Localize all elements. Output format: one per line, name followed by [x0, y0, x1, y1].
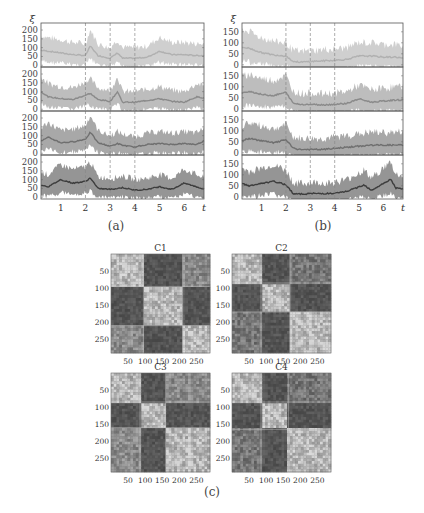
- y-tick-label: 150: [223, 27, 239, 37]
- heatmap-title: C4: [275, 362, 288, 372]
- y-tick-label: 250: [216, 335, 231, 344]
- y-tick-label: 150: [22, 122, 38, 132]
- y-tick-label: 0: [234, 104, 239, 114]
- x-axis-label: t: [202, 202, 207, 213]
- y-tick-label: 50: [99, 267, 109, 276]
- y-tick-label: 200: [22, 113, 38, 123]
- y-tick-label: 150: [223, 71, 239, 81]
- x-tick-label: 50: [123, 476, 133, 485]
- y-tick-label: 200: [216, 318, 231, 327]
- y-tick-label: 50: [228, 93, 239, 103]
- x-tick-label: 200: [172, 357, 187, 366]
- subplot-4: 050100150200: [22, 155, 204, 202]
- x-tick-label: 6: [381, 203, 387, 213]
- subplot-4: 050100150: [223, 155, 403, 202]
- y-tick-label: 50: [220, 386, 230, 395]
- x-tick-label: 5: [356, 203, 362, 213]
- y-tick-label: 0: [234, 60, 239, 70]
- x-tick-label: 4: [132, 203, 138, 213]
- x-tick-label: 3: [307, 203, 313, 213]
- x-tick-label: 1: [58, 203, 64, 213]
- y-tick-label: 100: [22, 175, 38, 185]
- subplot-2: 050100150: [223, 67, 403, 114]
- y-tick-label: 150: [22, 78, 38, 88]
- x-tick-label: 200: [172, 476, 187, 485]
- heatmap-svg: C15050100100150150200200250250C250501001…: [0, 240, 424, 513]
- heatmap-title: C3: [154, 362, 167, 372]
- subplot-3: 050100150: [223, 111, 403, 158]
- x-tick-label: 150: [155, 476, 170, 485]
- y-tick-label: 50: [27, 183, 38, 193]
- y-tick-label: 100: [223, 82, 239, 92]
- x-tick-label: 50: [244, 357, 254, 366]
- y-tick-label: 100: [216, 284, 231, 293]
- x-tick-label: 250: [189, 357, 204, 366]
- y-tick-label: 100: [22, 131, 38, 141]
- subplot-3: 050100150200: [22, 111, 204, 158]
- y-tick-label: 100: [223, 170, 239, 180]
- y-tick-label: 50: [27, 51, 38, 61]
- y-tick-label: 200: [95, 318, 110, 327]
- chart-svg: 050100150ξ050100150050100150050100150123…: [212, 0, 424, 240]
- x-tick-label: 250: [310, 476, 325, 485]
- y-tick-label: 200: [95, 437, 110, 446]
- y-tick-label: 150: [223, 159, 239, 169]
- caption-c: (c): [197, 485, 227, 499]
- x-tick-label: 100: [138, 476, 153, 485]
- x-tick-label: 4: [332, 203, 338, 213]
- y-tick-label: 0: [234, 192, 239, 202]
- variance-band: [41, 117, 204, 155]
- heatmap-c3: C35050100100150150200200250250: [95, 362, 211, 485]
- y-tick-label: 150: [216, 301, 231, 310]
- y-tick-label: 0: [33, 192, 38, 202]
- y-tick-label: 100: [223, 38, 239, 48]
- x-tick-label: 2: [83, 203, 89, 213]
- caption-b: (b): [308, 219, 338, 233]
- y-tick-label: 50: [228, 137, 239, 147]
- y-tick-label: 200: [22, 25, 38, 35]
- y-tick-label: 100: [22, 87, 38, 97]
- y-axis-label: ξ: [29, 13, 35, 24]
- x-tick-label: 100: [259, 357, 274, 366]
- y-tick-label: 150: [22, 166, 38, 176]
- x-tick-label: 100: [259, 476, 274, 485]
- x-axis-label: t: [401, 202, 406, 213]
- y-tick-label: 150: [95, 420, 110, 429]
- heatmap-title: C1: [154, 243, 167, 253]
- x-tick-label: 5: [157, 203, 163, 213]
- heatmap-c1: C15050100100150150200200250250: [95, 243, 211, 366]
- y-tick-label: 100: [95, 403, 110, 412]
- y-tick-label: 50: [27, 95, 38, 105]
- x-tick-label: 6: [181, 203, 187, 213]
- subplot-2: 050100150200: [22, 67, 204, 114]
- y-tick-label: 150: [95, 301, 110, 310]
- chart-panel-a: 050100150200ξ050100150200050100150200050…: [0, 0, 212, 240]
- y-tick-label: 200: [22, 157, 38, 167]
- y-tick-label: 150: [22, 34, 38, 44]
- y-tick-label: 150: [223, 115, 239, 125]
- x-tick-label: 200: [293, 476, 308, 485]
- variance-band: [41, 161, 204, 199]
- x-tick-label: 200: [293, 357, 308, 366]
- subplot-1: 050100150ξ: [223, 13, 403, 70]
- x-tick-label: 250: [310, 357, 325, 366]
- x-tick-label: 1: [259, 203, 265, 213]
- y-tick-label: 250: [95, 454, 110, 463]
- y-tick-label: 100: [216, 403, 231, 412]
- y-tick-label: 50: [220, 267, 230, 276]
- y-tick-label: 250: [95, 335, 110, 344]
- y-axis-label: ξ: [230, 13, 236, 24]
- chart-panel-b: 050100150ξ050100150050100150050100150123…: [212, 0, 424, 240]
- x-tick-label: 2: [283, 203, 289, 213]
- subplot-1: 050100150200ξ: [22, 13, 204, 70]
- x-tick-label: 100: [138, 357, 153, 366]
- y-tick-label: 50: [27, 139, 38, 149]
- x-tick-label: 50: [123, 357, 133, 366]
- y-tick-label: 100: [223, 126, 239, 136]
- x-tick-label: 150: [276, 476, 291, 485]
- heatmap-title: C2: [275, 243, 288, 253]
- x-tick-label: 3: [107, 203, 113, 213]
- y-tick-label: 50: [228, 181, 239, 191]
- heatmap-c4: C45050100100150150200200250250: [216, 362, 332, 485]
- y-tick-label: 50: [99, 386, 109, 395]
